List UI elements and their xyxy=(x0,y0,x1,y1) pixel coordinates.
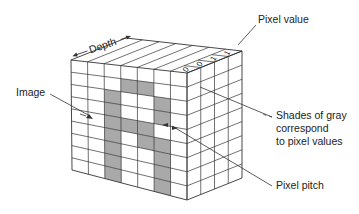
pixel-value-leader xyxy=(238,25,256,45)
image-label: Image xyxy=(16,86,45,98)
shades-label-line2: correspond xyxy=(276,122,329,134)
shades-leader-dash xyxy=(262,114,272,117)
shades-label-line3: to pixel values xyxy=(276,135,343,147)
shades-label-line1: Shades of gray xyxy=(276,109,347,121)
pixel-cube-diagram: 0011 Depth Pixel value Image Shades of g… xyxy=(0,0,359,214)
pixel-value-label: Pixel value xyxy=(258,13,309,25)
pixel-pitch-label: Pixel pitch xyxy=(276,179,324,191)
